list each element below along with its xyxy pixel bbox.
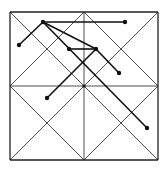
- diagram-canvas: [0, 0, 167, 172]
- point-H: [145, 126, 149, 130]
- point-B: [123, 20, 127, 24]
- path-segment: [96, 49, 119, 73]
- path-segment: [43, 22, 147, 128]
- point-E: [94, 47, 98, 51]
- point-D: [67, 47, 71, 51]
- point-A: [41, 20, 45, 24]
- point-F: [117, 71, 121, 75]
- point-G: [45, 96, 49, 100]
- point-O: [82, 84, 85, 87]
- point-C: [17, 43, 21, 47]
